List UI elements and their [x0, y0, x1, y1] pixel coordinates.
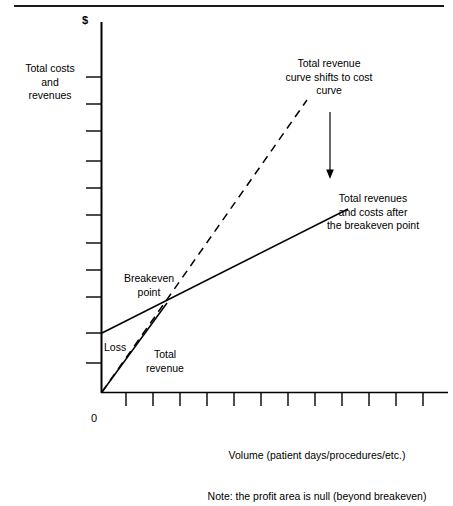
annotation-breakeven-point: Breakeven point: [100, 272, 198, 299]
y-axis-ticks: [86, 77, 101, 363]
x-axis-caption: Volume (patient days/procedures/etc.) No…: [186, 422, 448, 506]
x-axis-title: Volume (patient days/procedures/etc.): [186, 449, 448, 463]
annotation-total-revenue-area: Total revenue: [134, 348, 196, 375]
annotation-after-breakeven: Total revenues and costs after the break…: [296, 192, 450, 233]
origin-label: 0: [87, 412, 101, 426]
y-axis-unit-label: $: [74, 14, 96, 28]
annotation-curve-shift: Total revenue curve shifts to cost curve: [236, 57, 422, 98]
x-axis-ticks: [126, 393, 423, 406]
shift-annotation-arrow: [326, 112, 334, 179]
y-axis-title: Total costs and revenues: [8, 62, 92, 103]
x-axis-note: Note: the profit area is null (beyond br…: [186, 490, 448, 504]
